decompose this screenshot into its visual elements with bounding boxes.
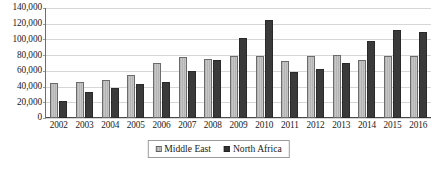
- bar-chart: 020,00040,00060,00080,000100,000120,0001…: [0, 0, 437, 170]
- bar-north-africa-2004: [111, 88, 119, 118]
- bar-north-africa-2005: [136, 84, 144, 118]
- x-axis-tick-label: 2016: [405, 120, 431, 131]
- x-axis-tick-label: 2007: [174, 120, 200, 131]
- bar-group-2014: [354, 8, 380, 118]
- y-axis-tick-label: 20,000: [0, 98, 42, 107]
- bar-middle-east-2014: [358, 60, 366, 118]
- bar-middle-east-2007: [179, 57, 187, 118]
- bar-north-africa-2014: [367, 41, 375, 118]
- bar-groups: [46, 8, 431, 118]
- bar-middle-east-2004: [102, 80, 110, 118]
- bar-north-africa-2006: [162, 82, 170, 118]
- bar-north-africa-2012: [316, 69, 324, 118]
- x-axis-tick-label: 2002: [46, 120, 72, 131]
- bar-group-2010: [251, 8, 277, 118]
- x-axis-tick-label: 2012: [303, 120, 329, 131]
- y-axis-tick-label: 120,000: [0, 19, 42, 28]
- x-axis-tick-label: 2013: [328, 120, 354, 131]
- x-axis-tick-label: 2015: [380, 120, 406, 131]
- legend-swatch-north-africa: [224, 146, 230, 152]
- x-axis-labels: 2002200320042005200620072008200920102011…: [46, 120, 431, 131]
- bar-middle-east-2008: [204, 59, 212, 118]
- bar-north-africa-2007: [188, 71, 196, 118]
- bar-middle-east-2010: [256, 56, 264, 118]
- bar-north-africa-2015: [393, 30, 401, 118]
- x-axis-tick-label: 2004: [97, 120, 123, 131]
- legend-label-middle-east: Middle East: [164, 143, 211, 154]
- y-axis-tick-label: 40,000: [0, 82, 42, 91]
- bar-group-2012: [303, 8, 329, 118]
- bar-group-2006: [149, 8, 175, 118]
- bar-group-2016: [405, 8, 431, 118]
- x-axis-tick-label: 2010: [251, 120, 277, 131]
- bar-group-2008: [200, 8, 226, 118]
- bar-middle-east-2003: [76, 82, 84, 118]
- bar-north-africa-2003: [85, 92, 93, 118]
- bar-middle-east-2012: [307, 56, 315, 118]
- x-axis-tick-label: 2005: [123, 120, 149, 131]
- bar-group-2007: [174, 8, 200, 118]
- bar-group-2005: [123, 8, 149, 118]
- bar-group-2003: [72, 8, 98, 118]
- y-axis-tick-label: 60,000: [0, 66, 42, 75]
- bar-group-2002: [46, 8, 72, 118]
- legend-swatch-middle-east: [155, 146, 161, 152]
- bar-group-2009: [226, 8, 252, 118]
- bar-north-africa-2016: [419, 32, 427, 118]
- bar-north-africa-2013: [342, 63, 350, 118]
- bar-north-africa-2010: [265, 20, 273, 118]
- bar-middle-east-2013: [333, 55, 341, 118]
- legend-label-north-africa: North Africa: [233, 143, 282, 154]
- bar-middle-east-2006: [153, 63, 161, 118]
- bar-middle-east-2011: [281, 61, 289, 118]
- bar-group-2015: [380, 8, 406, 118]
- legend-item-middle-east: Middle East: [155, 143, 211, 154]
- chart-legend: Middle East North Africa: [147, 140, 289, 158]
- x-axis-tick-label: 2003: [72, 120, 98, 131]
- bar-middle-east-2005: [127, 75, 135, 118]
- bar-group-2004: [97, 8, 123, 118]
- x-axis-tick-label: 2011: [277, 120, 303, 131]
- x-axis-tick-label: 2014: [354, 120, 380, 131]
- x-axis-tick-label: 2006: [149, 120, 175, 131]
- y-axis-tick-label: 140,000: [0, 3, 42, 12]
- bar-north-africa-2009: [239, 38, 247, 118]
- y-axis-tick-label: 0: [0, 113, 42, 122]
- legend-item-north-africa: North Africa: [224, 143, 282, 154]
- bar-group-2011: [277, 8, 303, 118]
- bar-middle-east-2002: [50, 83, 58, 118]
- x-axis-tick-label: 2008: [200, 120, 226, 131]
- bar-north-africa-2008: [213, 60, 221, 118]
- x-axis-tick-label: 2009: [226, 120, 252, 131]
- bar-middle-east-2009: [230, 56, 238, 118]
- y-axis-tick-label: 100,000: [0, 35, 42, 44]
- y-axis-tick-label: 80,000: [0, 51, 42, 60]
- bar-group-2013: [328, 8, 354, 118]
- y-axis-labels: 020,00040,00060,00080,000100,000120,0001…: [0, 0, 42, 126]
- bar-middle-east-2015: [384, 56, 392, 118]
- bar-middle-east-2016: [410, 56, 418, 118]
- bar-north-africa-2002: [59, 101, 67, 118]
- bar-north-africa-2011: [290, 72, 298, 118]
